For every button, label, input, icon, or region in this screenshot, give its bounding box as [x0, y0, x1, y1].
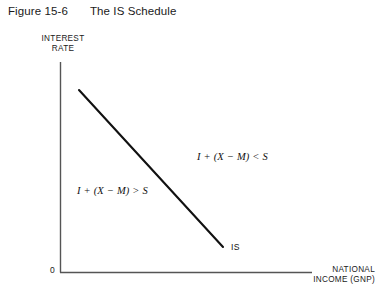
is-curve	[79, 90, 223, 247]
is-curve-label: IS	[231, 242, 240, 252]
plot-area	[0, 0, 379, 301]
figure-container: Figure 15-6The IS Schedule INTEREST RATE…	[0, 0, 379, 301]
annotation-investment-exceeds-savings: I + (X − M) > S	[77, 185, 148, 196]
annotation-savings-exceeds-investment: I + (X − M) < S	[197, 151, 268, 162]
